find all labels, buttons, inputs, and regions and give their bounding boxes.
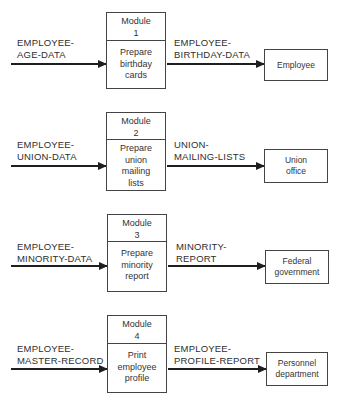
module-title: Module xyxy=(108,318,166,330)
module-title: Module xyxy=(108,217,166,229)
module-header: Module 1 xyxy=(107,13,165,41)
output-label-line: EMPLOYEE- xyxy=(174,37,250,49)
module-title: Module xyxy=(107,15,165,27)
output-arrow-icon xyxy=(167,63,264,65)
output-arrow-icon xyxy=(167,165,264,167)
output-arrow-icon xyxy=(168,265,265,267)
module-box: Module 1 Prepare birthday cards xyxy=(106,12,166,89)
module-header: Module 2 xyxy=(107,113,165,140)
output-label-line: PROFILE-REPORT xyxy=(174,355,260,367)
process-line: mailing xyxy=(107,166,165,178)
input-data-label: EMPLOYEE- MINORITY-DATA xyxy=(17,241,92,265)
input-label-line: MASTER-RECORD xyxy=(17,355,104,367)
flow-row-4: EMPLOYEE- MASTER-RECORD Module 4 Print e… xyxy=(0,300,340,400)
output-data-label: EMPLOYEE- BIRTHDAY-DATA xyxy=(174,37,250,61)
input-label-line: EMPLOYEE- xyxy=(17,241,92,253)
input-arrow-icon xyxy=(11,368,107,370)
entity-label: Federal xyxy=(283,256,312,267)
input-label-line: UNION-DATA xyxy=(17,151,77,163)
process-line: lists xyxy=(107,178,165,190)
entity-label: Employee xyxy=(277,60,315,71)
entity-label: department xyxy=(276,369,319,380)
module-box: Module 4 Print employee profile xyxy=(107,315,167,393)
input-arrow-icon xyxy=(11,265,107,267)
flow-row-2: EMPLOYEE- UNION-DATA Module 2 Prepare un… xyxy=(0,100,340,200)
input-arrow-icon xyxy=(11,165,106,167)
module-number: 2 xyxy=(107,127,165,139)
input-label-line: MINORITY-DATA xyxy=(17,253,92,265)
output-label-line: MINORITY- xyxy=(176,241,227,253)
output-data-label: EMPLOYEE- PROFILE-REPORT xyxy=(174,343,260,367)
input-data-label: EMPLOYEE- AGE-DATA xyxy=(17,37,74,61)
module-header: Module 3 xyxy=(108,215,166,242)
process-line: Print xyxy=(108,350,166,362)
output-label-line: UNION- xyxy=(174,139,245,151)
input-data-label: EMPLOYEE- UNION-DATA xyxy=(17,139,77,163)
input-label-line: EMPLOYEE- xyxy=(17,139,77,151)
flow-row-1: EMPLOYEE- AGE-DATA Module 1 Prepare birt… xyxy=(0,0,340,100)
process-line: Prepare xyxy=(107,143,165,155)
entity-label: government xyxy=(275,267,320,278)
module-number: 4 xyxy=(108,330,166,342)
process-line: Prepare xyxy=(107,47,165,59)
process-line: profile xyxy=(108,373,166,385)
module-process: Prepare minority report xyxy=(108,242,166,283)
process-line: Prepare xyxy=(108,248,166,260)
process-line: cards xyxy=(107,70,165,82)
module-number: 1 xyxy=(107,27,165,39)
module-title: Module xyxy=(107,115,165,127)
process-line: employee xyxy=(108,362,166,374)
input-arrow-icon xyxy=(11,63,106,65)
module-box: Module 2 Prepare union mailing lists xyxy=(106,112,166,191)
output-data-label: MINORITY- REPORT xyxy=(176,241,227,265)
destination-entity-box: Union office xyxy=(264,149,328,183)
flow-row-3: EMPLOYEE- MINORITY-DATA Module 3 Prepare… xyxy=(0,200,340,300)
module-process: Prepare union mailing lists xyxy=(107,140,165,189)
module-box: Module 3 Prepare minority report xyxy=(107,214,167,292)
process-line: report xyxy=(108,271,166,283)
output-arrow-icon xyxy=(168,368,266,370)
entity-label: office xyxy=(286,166,306,177)
module-header: Module 4 xyxy=(108,316,166,344)
process-line: minority xyxy=(108,260,166,272)
output-data-label: UNION- MAILING-LISTS xyxy=(174,139,245,163)
module-process: Prepare birthday cards xyxy=(107,41,165,82)
output-label-line: REPORT xyxy=(176,253,227,265)
input-label-line: EMPLOYEE- xyxy=(17,343,104,355)
module-number: 3 xyxy=(108,229,166,241)
process-line: union xyxy=(107,155,165,167)
input-label-line: EMPLOYEE- xyxy=(17,37,74,49)
input-data-label: EMPLOYEE- MASTER-RECORD xyxy=(17,343,104,367)
output-label-line: EMPLOYEE- xyxy=(174,343,260,355)
destination-entity-box: Federal government xyxy=(265,250,329,284)
module-process: Print employee profile xyxy=(108,344,166,385)
output-label-line: MAILING-LISTS xyxy=(174,151,245,163)
input-label-line: AGE-DATA xyxy=(17,49,74,61)
output-label-line: BIRTHDAY-DATA xyxy=(174,49,250,61)
entity-label: Personnel xyxy=(278,358,316,369)
destination-entity-box: Personnel department xyxy=(266,352,328,386)
destination-entity-box: Employee xyxy=(264,49,328,81)
entity-label: Union xyxy=(285,155,307,166)
process-line: birthday xyxy=(107,59,165,71)
